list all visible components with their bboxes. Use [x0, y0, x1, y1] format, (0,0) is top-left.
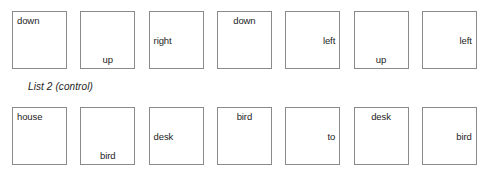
word-box-label: desk	[367, 108, 395, 125]
word-box-row-top: downuprightdownleftupleft	[12, 11, 486, 70]
word-box-label: desk	[150, 128, 178, 145]
list-label: List 2 (control)	[28, 80, 93, 93]
word-box-label: down	[13, 12, 43, 29]
word-box-label: left	[456, 32, 476, 49]
word-box[interactable]: bird	[80, 107, 135, 165]
word-box[interactable]: house	[12, 107, 67, 165]
word-box[interactable]: desk	[149, 107, 204, 165]
word-box-label: bird	[233, 108, 256, 125]
word-placement-worksheet: downuprightdownleftupleft List 2 (contro…	[0, 0, 486, 171]
word-box[interactable]: up	[354, 11, 409, 69]
word-box-label: down	[229, 12, 259, 29]
word-box[interactable]: left	[422, 11, 477, 69]
word-box-label: right	[150, 32, 176, 49]
word-box[interactable]: to	[285, 107, 340, 165]
word-box[interactable]: right	[149, 11, 204, 69]
word-box-label: up	[99, 51, 117, 68]
word-box-label: bird	[452, 128, 475, 145]
word-box[interactable]: down	[217, 11, 272, 69]
word-box[interactable]: bird	[217, 107, 272, 165]
word-box[interactable]: desk	[354, 107, 409, 165]
word-box-label: to	[323, 128, 339, 145]
word-box[interactable]: bird	[422, 107, 477, 165]
word-box-row-bottom: housebirddeskbirdtodeskbird	[12, 107, 486, 166]
word-box[interactable]: up	[80, 11, 135, 69]
word-box[interactable]: left	[285, 11, 340, 69]
word-box-label: bird	[96, 147, 119, 164]
word-box[interactable]: down	[12, 11, 67, 69]
word-box-label: left	[319, 32, 339, 49]
word-box-label: house	[13, 108, 46, 125]
word-box-label: up	[372, 51, 390, 68]
